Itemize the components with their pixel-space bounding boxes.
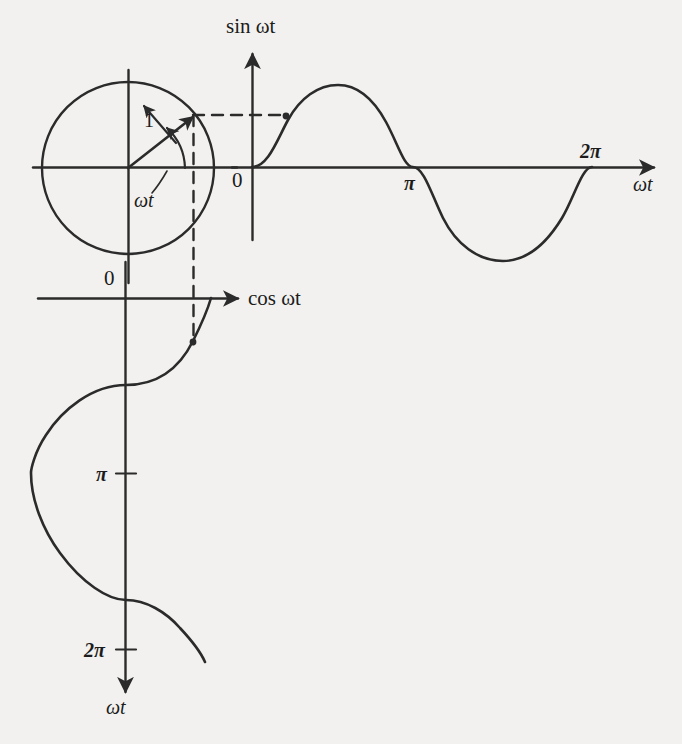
sine-axis-label: sin ωt: [226, 16, 275, 37]
figure-canvas: [0, 0, 682, 744]
sine-origin-label: 0: [232, 170, 243, 191]
sine-marked-point: [283, 113, 290, 120]
cosine-two-pi-label: 2π: [84, 640, 105, 660]
trigonometric-figure: sin ωt 0 π 2π ωt cos ωt 0 π 2π ωt 1 ωt: [0, 0, 682, 744]
cosine-curve: [31, 298, 211, 662]
angle-label: ωt: [134, 190, 154, 210]
sine-time-axis-label: ωt: [633, 174, 653, 194]
cosine-origin-label: 0: [104, 268, 115, 289]
cosine-pi-label: π: [96, 464, 107, 484]
sine-two-pi-label: 2π: [580, 141, 601, 161]
sine-curve: [252, 85, 592, 261]
sine-pi-label: π: [404, 173, 415, 193]
angle-label-leader: [152, 171, 167, 193]
cosine-marked-point: [190, 339, 197, 346]
cosine-time-axis-label: ωt: [106, 697, 126, 717]
cosine-axis-label: cos ωt: [248, 288, 301, 309]
radius-length-label: 1: [144, 110, 154, 130]
